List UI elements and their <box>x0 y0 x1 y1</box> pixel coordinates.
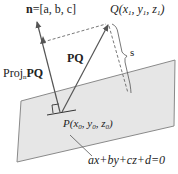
normal-vector-label: n=[a, b, c] <box>26 3 76 15</box>
pq-label: PQ <box>67 52 84 64</box>
p-text: P(x <box>63 117 78 129</box>
p-point-label: P(x0, y0, z0) <box>63 118 113 131</box>
q-close: ) <box>161 2 165 16</box>
q-text: Q(x <box>110 2 128 16</box>
p-text-z: , z <box>96 117 106 129</box>
projection-label: ProjnPQ <box>3 67 43 81</box>
q-point-label: Q(x1, y1, z1) <box>110 3 165 17</box>
q-text-y: , y <box>132 2 143 16</box>
p-text-y: , y <box>82 117 92 129</box>
plane-equation-label: ax+by+cz+d=0 <box>88 154 165 166</box>
distance-label: s <box>130 47 134 58</box>
proj-vector: PQ <box>27 66 44 80</box>
q-text-z: , z <box>146 2 157 16</box>
normal-components: =[a, b, c] <box>33 2 76 16</box>
p-close: ) <box>109 117 113 129</box>
diagram-canvas <box>0 0 178 174</box>
normal-symbol: n <box>26 2 33 16</box>
proj-text: Proj <box>3 66 23 80</box>
projection-dashed-line <box>43 24 106 42</box>
